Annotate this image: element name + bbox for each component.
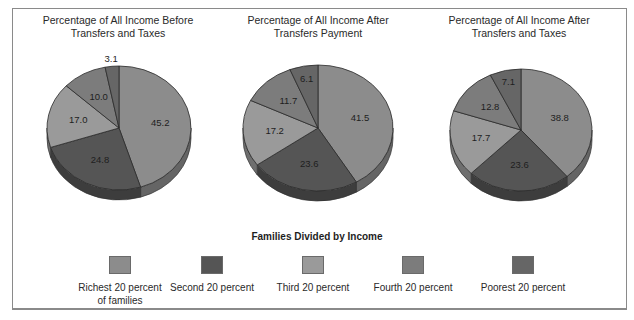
pie-value-label: 41.5 [351, 112, 370, 123]
legend-item-poorest: Poorest 20 percent [463, 256, 583, 294]
legend-swatch [201, 256, 223, 274]
pie-value-label: 24.8 [91, 154, 110, 165]
legend-swatch [402, 256, 424, 274]
legend-swatch [512, 256, 534, 274]
pie-value-label: 45.2 [151, 117, 170, 128]
pie-charts: 45.224.817.010.03.141.523.617.211.76.138… [0, 0, 634, 230]
legend-title: Families Divided by Income [0, 231, 634, 242]
legend-label: Fourth 20 percent [353, 281, 473, 294]
pie-value-label: 38.8 [550, 112, 569, 123]
legend-swatch [302, 256, 324, 274]
pie-chart: 41.523.617.211.76.1 [243, 65, 393, 201]
pie-value-label: 17.2 [265, 125, 284, 136]
pie-value-label: 3.1 [105, 53, 118, 64]
pie-value-label: 23.6 [300, 158, 319, 169]
pie-value-label: 12.8 [481, 101, 500, 112]
pie-value-label: 11.7 [279, 95, 297, 106]
pie-value-label: 17.7 [472, 132, 491, 143]
pie-chart: 38.823.617.712.87.1 [450, 69, 592, 201]
pie-value-label: 6.1 [300, 73, 313, 84]
pie-value-label: 7.1 [502, 76, 515, 87]
legend-swatch [109, 256, 131, 274]
legend-label: Poorest 20 percent [463, 281, 583, 294]
pie-chart: 45.224.817.010.03.1 [47, 53, 191, 200]
legend-item-fourth: Fourth 20 percent [353, 256, 473, 294]
pie-value-label: 23.6 [510, 159, 529, 170]
pie-value-label: 10.0 [89, 91, 108, 102]
pie-value-label: 17.0 [69, 114, 88, 125]
